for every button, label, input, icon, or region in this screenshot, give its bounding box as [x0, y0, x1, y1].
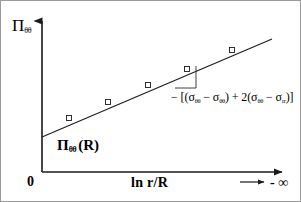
formula-mid: ) + 2(: [225, 90, 251, 104]
intercept-annotation: Πθθ(R): [57, 138, 99, 154]
trend-line: [42, 39, 272, 137]
formula-minus-1: −: [200, 90, 212, 104]
data-point-marker: [185, 67, 190, 72]
intercept-symbol: Π: [57, 137, 69, 153]
y-axis-label: Πθθ: [12, 17, 31, 35]
intercept-subscript: θθ: [69, 145, 77, 154]
intercept-paren: (R): [78, 137, 99, 153]
data-point-marker: [67, 116, 72, 121]
y-axis-label-symbol: Π: [12, 16, 24, 35]
formula-prefix: − [(: [171, 90, 188, 104]
data-point-marker: [230, 48, 235, 53]
y-axis-label-subscript: θθ: [24, 26, 31, 35]
data-point-marker: [146, 83, 151, 88]
slope-formula-annotation: − [(σθθ − σθθ) + 2(σθθ − σrr)]: [171, 91, 293, 104]
data-point-marker: [106, 100, 111, 105]
figure-canvas: Πθθ Πθθ(R) 0 ln r/R - ∞ − [(σθθ − σθθ) +…: [0, 0, 301, 202]
x-axis-label: ln r/R: [131, 176, 168, 190]
origin-label: 0: [27, 175, 34, 189]
neg-infinity-label: - ∞: [270, 176, 288, 190]
formula-minus-2: −: [263, 90, 275, 104]
formula-suffix: )]: [286, 90, 294, 104]
